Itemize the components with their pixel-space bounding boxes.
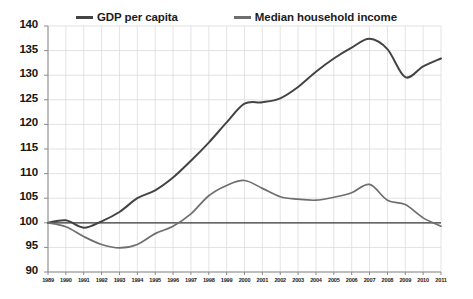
y-axis-tick-label: 100 (6, 215, 38, 227)
y-axis-tick-label: 115 (6, 141, 38, 153)
y-axis-tick-label: 95 (6, 239, 38, 251)
x-axis-tick-label: 2011 (431, 277, 451, 283)
y-axis-tick-label: 125 (6, 92, 38, 104)
chart-container: GDP per capita Median household income 9… (0, 0, 473, 299)
y-axis-tick-label: 120 (6, 116, 38, 128)
y-axis-tick-label: 105 (6, 190, 38, 202)
y-axis-tick-label: 140 (6, 18, 38, 30)
chart-plot-area (0, 0, 473, 299)
y-axis-tick-label: 110 (6, 166, 38, 178)
y-axis-tick-label: 135 (6, 43, 38, 55)
y-axis-tick-label: 130 (6, 67, 38, 79)
y-axis-tick-label: 90 (6, 264, 38, 276)
